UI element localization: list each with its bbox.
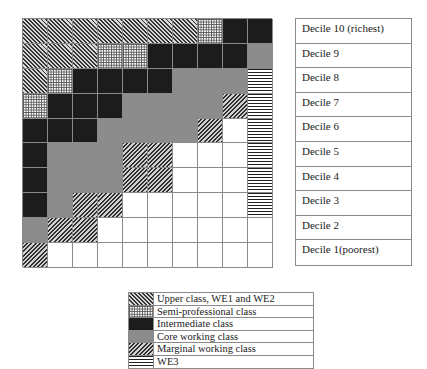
grid-cell-upper-class [23,44,48,69]
grid-cell-marginal-working [73,218,98,243]
legend-label: Upper class, WE1 and WE2 [154,293,275,305]
grid-cell-upper-class [123,19,148,44]
grid-cell-core-working [123,94,148,119]
grid-cell-intermediate [73,69,98,94]
legend-label: Intermediate class [154,318,233,330]
grid-cell-marginal-working [123,168,148,193]
grid-cell-empty [223,243,248,268]
grid-cell-intermediate [48,119,73,144]
grid-cell-intermediate [98,69,123,94]
grid-cell-empty [198,168,223,193]
grid-cell-intermediate [223,44,248,69]
grid-cell-marginal-working [73,193,98,218]
grid-cell-semi-professional [123,44,148,69]
grid-cell-core-working [73,143,98,168]
decile-label: Decile 8 [296,68,411,93]
grid-cell-empty [223,143,248,168]
decile-label: Decile 4 [296,167,411,192]
grid-cell-empty [198,218,223,243]
grid-cell-upper-class [148,19,173,44]
grid-cell-core-working [23,218,48,243]
grid-cell-intermediate [73,119,98,144]
grid-cell-we3 [248,69,273,94]
semi-professional-swatch-icon [129,306,154,318]
marginal-working-swatch-icon [129,343,154,355]
grid-cell-empty [223,218,248,243]
grid-cell-empty [223,168,248,193]
decile-label: Decile 10 (richest) [296,19,411,44]
grid-cell-core-working [73,168,98,193]
grid-cell-semi-professional [98,44,123,69]
grid-cell-empty [248,243,273,268]
grid-cell-empty [248,218,273,243]
grid-cell-intermediate [148,69,173,94]
grid-cell-core-working [98,168,123,193]
grid-cell-marginal-working [123,143,148,168]
grid-cell-we3 [248,143,273,168]
decile-label: Decile 5 [296,142,411,167]
legend-item-upper-class: Upper class, WE1 and WE2 [129,293,313,306]
grid-cell-intermediate [23,168,48,193]
grid-cell-we3 [248,193,273,218]
grid-cell-marginal-working [198,119,223,144]
grid-cell-upper-class [48,19,73,44]
grid-cell-core-working [173,69,198,94]
grid-cell-core-working [48,143,73,168]
grid-cell-marginal-working [48,218,73,243]
decile-label: Decile 2 [296,216,411,241]
grid-cell-marginal-working [148,168,173,193]
we3-swatch-icon [129,356,154,368]
grid-cell-upper-class [98,19,123,44]
grid-cell-core-working [198,69,223,94]
grid-cell-empty [173,218,198,243]
grid-cell-intermediate [248,19,273,44]
grid-cell-marginal-working [23,243,48,268]
grid-cell-core-working [173,94,198,119]
grid-cell-core-working [173,119,198,144]
grid-cell-upper-class [48,44,73,69]
grid-cell-intermediate [23,119,48,144]
intermediate-swatch-icon [129,318,154,330]
grid-cell-core-working [98,143,123,168]
grid-cell-marginal-working [98,193,123,218]
decile-labels: Decile 10 (richest) Decile 9 Decile 8 De… [295,18,412,266]
grid-cell-core-working [148,119,173,144]
grid-cell-empty [223,193,248,218]
decile-label: Decile 6 [296,117,411,142]
grid-cell-upper-class [23,69,48,94]
grid-cell-empty [148,243,173,268]
grid-cell-intermediate [198,44,223,69]
grid-cell-empty [173,168,198,193]
grid-cell-empty [198,143,223,168]
grid-cell-empty [123,243,148,268]
grid-cell-we3 [248,94,273,119]
grid-cell-empty [148,218,173,243]
grid-cell-intermediate [23,193,48,218]
legend-item-semi-professional: Semi-professional class [129,306,313,319]
grid-cell-empty [148,193,173,218]
legend-label: WE3 [154,356,179,368]
grid-cell-core-working [123,119,148,144]
grid-cell-upper-class [23,19,48,44]
grid-cell-upper-class [73,44,98,69]
grid-cell-empty [223,119,248,144]
grid-cell-empty [198,193,223,218]
decile-label: Decile 3 [296,191,411,216]
grid-cell-intermediate [98,94,123,119]
grid-cell-empty [198,243,223,268]
grid-cell-core-working [248,44,273,69]
grid-cell-core-working [48,168,73,193]
legend-item-core-working: Core working class [129,331,313,344]
grid-cell-marginal-working [223,94,248,119]
grid-cell-intermediate [223,19,248,44]
core-working-swatch-icon [129,331,154,343]
decile-label: Decile 7 [296,93,411,118]
grid-cell-intermediate [123,69,148,94]
grid-cell-marginal-working [148,143,173,168]
grid-cell-empty [98,218,123,243]
grid-cell-empty [123,218,148,243]
grid-cell-intermediate [23,143,48,168]
grid-cell-empty [173,143,198,168]
grid-cell-core-working [98,119,123,144]
grid-cell-semi-professional [48,69,73,94]
